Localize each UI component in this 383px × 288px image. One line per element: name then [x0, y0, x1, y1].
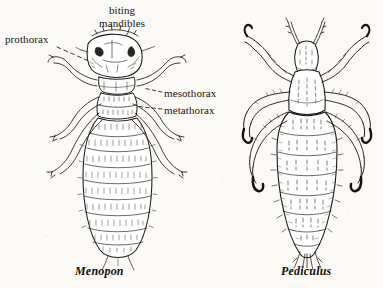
caption-menopon: Menopon: [75, 264, 124, 279]
label-metathorax: metathorax: [164, 104, 214, 116]
pediculus-thorax: [289, 70, 326, 115]
menopon-prothorax: [99, 77, 135, 94]
menopon-thorax: [97, 93, 137, 119]
label-biting-mandibles-line1: biting: [109, 4, 135, 16]
caption-pediculus: Pediculus: [281, 264, 331, 279]
label-biting-mandibles: biting mandibles: [99, 4, 145, 30]
pediculus-head: [295, 41, 318, 74]
label-biting-mandibles-line2: mandibles: [99, 17, 145, 29]
lice-illustration-plate: [0, 0, 383, 288]
label-mesothorax: mesothorax: [164, 87, 216, 99]
label-prothorax: prothorax: [5, 33, 49, 45]
